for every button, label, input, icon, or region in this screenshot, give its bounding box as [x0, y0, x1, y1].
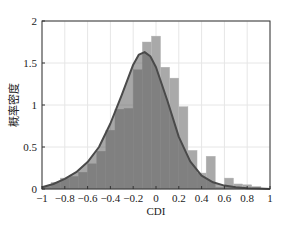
x-tick-label: 0.6 [218, 192, 232, 204]
x-tick-label: −1 [36, 192, 48, 204]
y-axis-label: 概率密度 [7, 83, 20, 127]
x-tick-label: −0.8 [55, 192, 75, 204]
y-tick-label: 2 [32, 15, 38, 27]
x-tick-label: −0.4 [100, 192, 120, 204]
curve-area [42, 52, 270, 189]
x-axis-label: CDI [147, 205, 166, 217]
x-tick-label: 0 [153, 192, 159, 204]
y-tick-label: 1 [32, 99, 38, 111]
density-curve-fill [42, 52, 270, 189]
y-tick-label: 0.5 [23, 141, 37, 153]
x-tick-label: 0.8 [240, 192, 254, 204]
x-tick-label: −0.6 [78, 192, 98, 204]
y-tick-label: 0 [32, 183, 38, 195]
x-tick-label: −0.2 [123, 192, 143, 204]
y-tick-label: 1.5 [23, 57, 37, 69]
histogram-chart: −1−0.8−0.6−0.4−0.200.20.40.60.81 00.511.… [0, 0, 287, 225]
x-tick-label: 0.4 [195, 192, 209, 204]
x-tick-label: 1 [267, 192, 273, 204]
x-tick-label: 0.2 [172, 192, 186, 204]
